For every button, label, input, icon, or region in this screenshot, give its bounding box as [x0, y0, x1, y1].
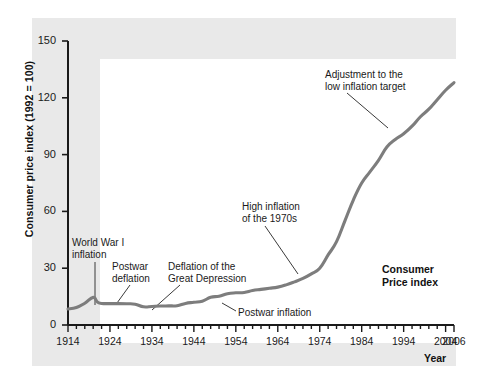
x-tick-label: 1954 — [214, 335, 258, 347]
annotation-ww1: World War I inflation — [72, 237, 124, 261]
y-axis — [62, 41, 68, 325]
annotation-low-inflation-target: Adjustment to the low inflation target — [325, 69, 406, 93]
x-tick-label: 1964 — [256, 335, 300, 347]
y-tick-label: 30 — [22, 261, 56, 273]
annotation-high-inflation-1970s: High inflation of the 1970s — [242, 201, 300, 225]
annotation-postwar-inflation: Postwar inflation — [238, 307, 311, 319]
y-tick-label: 150 — [22, 34, 56, 46]
x-tick-label: 1914 — [46, 335, 90, 347]
series-legend-label: Consumer Price index — [382, 263, 438, 289]
x-tick-label: 1944 — [172, 335, 216, 347]
x-tick-label: 1984 — [340, 335, 384, 347]
y-tick-label: 60 — [22, 204, 56, 216]
figure: Consumer price index (1992 = 100) 030609… — [0, 0, 489, 391]
x-tick-label: 1994 — [382, 335, 426, 347]
x-tick-label: 1934 — [130, 335, 174, 347]
x-axis — [68, 325, 454, 332]
annotation-great-depression: Deflation of the Great Depression — [168, 261, 246, 285]
y-tick-label: 0 — [22, 318, 56, 330]
x-tick-label: 1974 — [298, 335, 342, 347]
y-tick-label: 90 — [22, 148, 56, 160]
x-tick-label: 2006 — [432, 335, 476, 347]
annotation-postwar-deflation: Postwar deflation — [112, 261, 150, 285]
chart-svg — [0, 0, 489, 391]
x-tick-label: 1924 — [88, 335, 132, 347]
x-axis-title: Year — [424, 352, 446, 364]
y-tick-label: 120 — [22, 91, 56, 103]
